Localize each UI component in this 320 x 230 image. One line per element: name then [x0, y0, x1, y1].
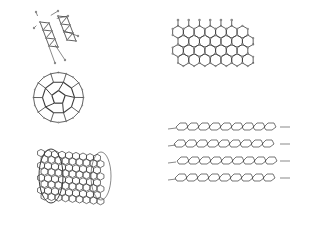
atom	[198, 62, 200, 64]
graphite-bond	[232, 157, 236, 161]
atom	[177, 19, 180, 22]
nanotube-bond	[73, 158, 76, 160]
nanotube-bond	[97, 203, 100, 205]
fullerene-bond	[73, 112, 79, 118]
atom	[225, 34, 227, 36]
nanotube-bond	[83, 202, 86, 204]
graphite-bond	[230, 174, 234, 178]
atom	[198, 37, 200, 39]
nanotube-bond	[94, 172, 97, 174]
nanotube-bond	[83, 153, 86, 155]
atom	[214, 34, 216, 36]
fullerene-bond	[38, 83, 45, 88]
graphite-bond	[185, 140, 189, 144]
fullerene-bond	[44, 118, 51, 122]
graphite-bond	[188, 157, 192, 161]
graphite-bond	[209, 123, 213, 127]
fullerene-bond	[79, 105, 83, 112]
nanotube-bond	[59, 182, 62, 184]
fullerene-bond	[46, 82, 54, 88]
graphite-bond	[231, 127, 233, 130]
graphite-bond	[208, 178, 210, 181]
graphite-bond	[221, 161, 223, 164]
atom	[247, 65, 249, 67]
graphite-bond	[177, 157, 181, 161]
graphite-bond	[187, 123, 191, 127]
fullerene-bond	[66, 74, 73, 78]
graphite-bond	[254, 157, 258, 161]
nanotube-bond	[45, 168, 48, 170]
atom	[236, 65, 238, 67]
nanotube-bond	[87, 202, 90, 204]
graphite-bond	[218, 144, 220, 147]
nanotube-bond	[38, 149, 41, 151]
atom	[231, 43, 233, 45]
fullerene-bond	[34, 98, 35, 106]
atom	[225, 28, 227, 30]
atom	[225, 65, 227, 67]
nanotube-rim	[91, 152, 111, 200]
nanotube-bond	[87, 196, 90, 198]
graphite-bond	[175, 178, 177, 181]
fullerene-bond	[63, 74, 66, 83]
diamond-bond	[43, 30, 52, 31]
fullerene-bond	[35, 105, 39, 112]
atom	[214, 28, 216, 30]
fullerene-bond	[46, 103, 55, 107]
graphite-bond	[220, 127, 222, 130]
atom	[220, 19, 223, 22]
nanotube-bond	[73, 170, 76, 172]
atom	[33, 27, 35, 29]
fullerene-bond	[63, 95, 66, 103]
nanotube-bond	[101, 191, 104, 193]
nanotube-bond	[80, 201, 83, 203]
nanotube-bond	[45, 156, 48, 158]
fullerene-bond	[71, 83, 78, 88]
fullerene-bond	[66, 118, 73, 122]
atom	[204, 65, 206, 67]
atom	[43, 76, 45, 78]
fullerene-bond	[51, 74, 54, 83]
atom	[214, 53, 216, 55]
atom	[220, 37, 222, 39]
atom	[77, 35, 79, 37]
fullerene-bond	[65, 95, 74, 97]
atom	[188, 56, 190, 58]
diamond-bond	[40, 22, 49, 23]
atom	[236, 46, 238, 48]
fullerene-bond	[59, 121, 67, 122]
atom	[241, 43, 243, 45]
nanotube-bond	[87, 172, 90, 174]
nanotube-bond	[62, 151, 65, 153]
nanotube-bond	[87, 184, 90, 186]
fullerene-bond	[79, 83, 83, 90]
atom	[54, 38, 56, 40]
fullerene-bond	[82, 98, 83, 106]
atom	[188, 43, 190, 45]
nanotube-bond	[87, 159, 90, 161]
atom	[247, 53, 249, 55]
nanotube-bond	[97, 154, 100, 156]
diamond-bond	[67, 17, 70, 25]
fullerene-bond	[71, 88, 74, 97]
fullerene-bond	[46, 107, 54, 113]
atom	[241, 37, 243, 39]
graphite-bond	[271, 178, 275, 181]
atom	[193, 46, 195, 48]
nanotube-bond	[101, 178, 104, 180]
fullerene-bond	[82, 90, 83, 98]
graphite-bond	[251, 140, 255, 144]
nanotube-bond	[38, 192, 41, 194]
graphite-bond	[240, 140, 244, 144]
fullerene-bond	[46, 88, 52, 95]
atom	[182, 53, 184, 55]
diamond-bond	[43, 23, 49, 30]
nanotube-bond	[69, 201, 72, 203]
nanotube-bond	[48, 199, 51, 201]
nanotube-bond	[101, 160, 104, 162]
graphite-bond	[176, 123, 180, 127]
atom	[236, 34, 238, 36]
atom	[247, 34, 249, 36]
atom	[177, 62, 179, 64]
atom	[209, 56, 211, 58]
